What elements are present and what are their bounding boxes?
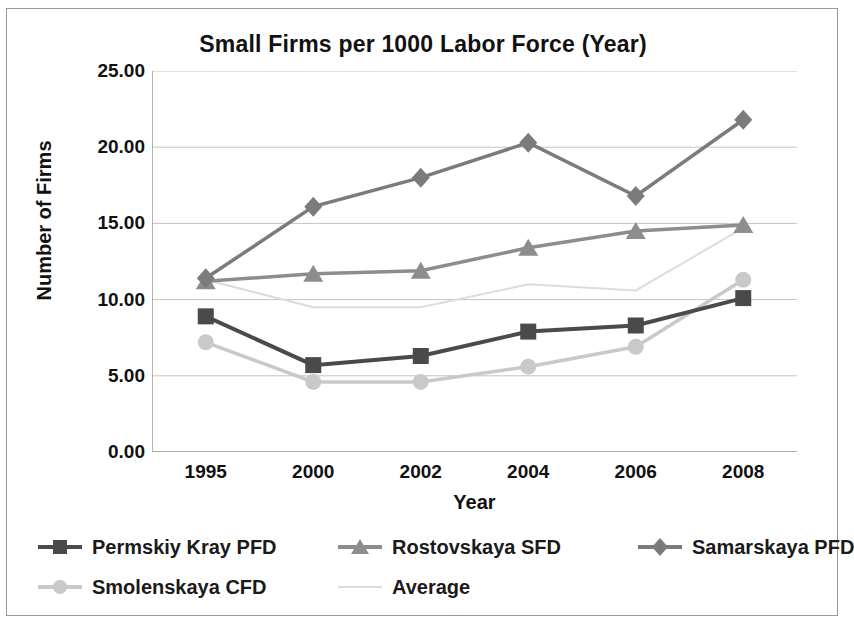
x-axis-tick-label: 1995	[151, 461, 261, 483]
data-point	[628, 339, 644, 355]
y-axis-tick-label: 20.00	[65, 136, 145, 158]
legend-item-permskiy-kray-pfd[interactable]: Permskiy Kray PFD	[37, 527, 337, 567]
x-axis-tick-label: 2008	[688, 461, 798, 483]
chart-frame: Small Firms per 1000 Labor Force (Year) …	[6, 8, 838, 616]
chart-canvas	[152, 71, 797, 452]
y-axis-tick-label: 10.00	[65, 289, 145, 311]
x-axis-tick-label: 2004	[473, 461, 583, 483]
y-axis-title: Number of Firms	[33, 106, 56, 336]
chart-legend: Permskiy Kray PFDRostovskaya SFDSamarska…	[37, 527, 827, 607]
data-point	[413, 374, 429, 390]
y-axis-tick-label: 0.00	[65, 441, 145, 463]
chart-title: Small Firms per 1000 Labor Force (Year)	[7, 31, 839, 58]
data-point	[304, 197, 322, 217]
data-point	[520, 359, 536, 375]
y-axis-tick-label: 15.00	[65, 212, 145, 234]
series-permskiy-kray-pfd	[198, 290, 752, 373]
legend-label: Smolenskaya CFD	[92, 576, 267, 599]
legend-circle-marker-icon	[37, 577, 83, 597]
legend-triangle-marker-icon	[337, 537, 383, 557]
series-smolenskaya-cfd	[198, 272, 752, 390]
x-axis-tick-label: 2000	[258, 461, 368, 483]
y-axis-tick-labels: 0.005.0010.0015.0020.0025.00	[57, 71, 145, 452]
data-point	[628, 318, 644, 334]
y-axis-tick-label: 25.00	[65, 60, 145, 82]
legend-diamond-marker-icon	[637, 537, 683, 557]
data-point	[519, 133, 537, 153]
series-average	[206, 228, 744, 307]
legend-item-samarskaya-pfd[interactable]: Samarskaya PFD	[637, 527, 827, 567]
data-point	[735, 290, 751, 306]
x-axis-title: Year	[152, 491, 797, 514]
data-point	[734, 110, 752, 130]
legend-row: Smolenskaya CFDAverage	[37, 567, 827, 607]
data-point	[413, 348, 429, 364]
series-line	[206, 120, 744, 278]
y-axis-tick-label: 5.00	[65, 365, 145, 387]
data-point	[627, 186, 645, 206]
legend-label: Average	[392, 576, 470, 599]
data-point	[412, 168, 430, 188]
series-samarskaya-pfd	[197, 110, 753, 288]
data-point	[305, 374, 321, 390]
legend-label: Samarskaya PFD	[692, 536, 854, 559]
legend-label: Permskiy Kray PFD	[92, 536, 277, 559]
legend-label: Rostovskaya SFD	[392, 536, 561, 559]
data-point	[735, 272, 751, 288]
series-rostovskaya-sfd	[196, 216, 754, 289]
x-axis-tick-labels: 199520002002200420062008	[152, 461, 797, 487]
legend-item-average[interactable]: Average	[337, 567, 637, 607]
legend-item-smolenskaya-cfd[interactable]: Smolenskaya CFD	[37, 567, 337, 607]
legend-item-rostovskaya-sfd[interactable]: Rostovskaya SFD	[337, 527, 637, 567]
legend-line-icon	[337, 577, 383, 597]
legend-row: Permskiy Kray PFDRostovskaya SFDSamarska…	[37, 527, 827, 567]
x-axis-tick-label: 2002	[366, 461, 476, 483]
legend-square-marker-icon	[37, 537, 83, 557]
data-point	[198, 308, 214, 324]
series-line	[206, 228, 744, 307]
data-point	[198, 334, 214, 350]
series-line	[206, 225, 744, 281]
x-axis-tick-label: 2006	[581, 461, 691, 483]
data-point	[520, 324, 536, 340]
plot-area	[152, 71, 797, 452]
data-point	[305, 357, 321, 373]
